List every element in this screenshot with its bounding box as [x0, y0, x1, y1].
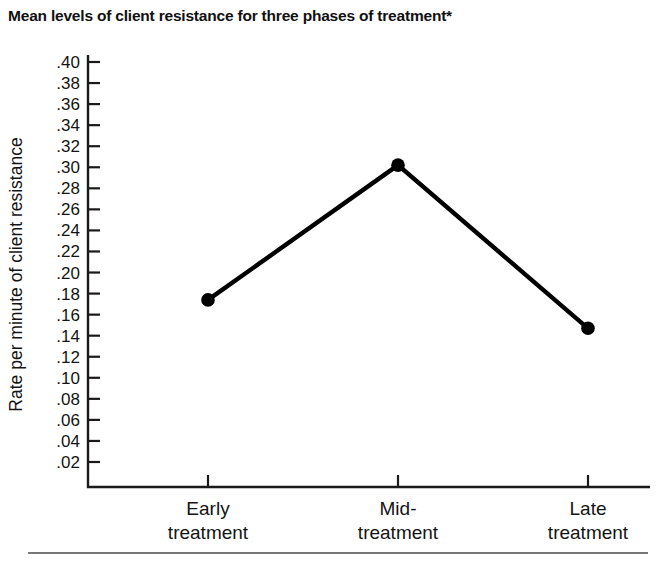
x-axis-tick-marks [208, 475, 588, 487]
y-tick-label: .24 [56, 221, 80, 240]
y-tick-label: .36 [56, 95, 80, 114]
x-tick-label: Mid-treatment [358, 498, 439, 543]
y-tick-label: .26 [56, 200, 80, 219]
y-tick-label: .14 [56, 327, 80, 346]
y-tick-label: .28 [56, 179, 80, 198]
y-axis-tick-marks [88, 62, 100, 462]
y-tick-label: .30 [56, 158, 80, 177]
y-tick-label: .18 [56, 285, 80, 304]
y-tick-label: .02 [56, 453, 80, 472]
y-axis-title: Rate per minute of client resistance [6, 137, 26, 411]
axis-spine [88, 55, 650, 487]
chart-figure: Mean levels of client resistance for thr… [0, 0, 664, 565]
y-tick-label: .32 [56, 137, 80, 156]
y-tick-label: .16 [56, 306, 80, 325]
data-point-marker [391, 158, 405, 172]
y-tick-label: .20 [56, 264, 80, 283]
y-tick-label: .08 [56, 390, 80, 409]
chart-plot-area: .40.38.36.34.32.30.28.26.24.22.20.18.16.… [0, 0, 664, 565]
x-tick-label: Latetreatment [548, 498, 629, 543]
data-series-line [208, 165, 588, 328]
y-tick-label: .34 [56, 116, 80, 135]
y-tick-label: .38 [56, 74, 80, 93]
data-point-marker [201, 293, 215, 307]
y-tick-label: .04 [56, 432, 80, 451]
x-tick-label: Earlytreatment [168, 498, 249, 543]
y-tick-label: .10 [56, 369, 80, 388]
y-tick-label: .12 [56, 348, 80, 367]
y-axis-tick-labels: .40.38.36.34.32.30.28.26.24.22.20.18.16.… [56, 53, 80, 472]
y-tick-label: .40 [56, 53, 80, 72]
x-axis-tick-labels: EarlytreatmentMid-treatmentLatetreatment [168, 498, 629, 543]
y-tick-label: .22 [56, 242, 80, 261]
y-tick-label: .06 [56, 411, 80, 430]
data-series-markers [201, 158, 595, 335]
data-point-marker [581, 322, 595, 336]
